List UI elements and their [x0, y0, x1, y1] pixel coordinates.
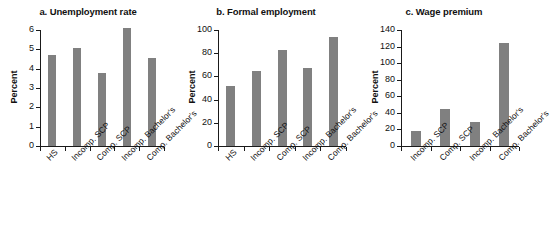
panel-c-y-tick — [397, 30, 401, 31]
panel-a-x-category-label: HS — [45, 148, 59, 162]
bar — [226, 86, 235, 146]
panel-c-y-tick-label: 0 — [363, 141, 395, 150]
panel-b-x-tick — [218, 147, 219, 151]
panel-c-y-axis-line — [401, 30, 402, 146]
panel-a-y-tick-label: 3 — [2, 83, 34, 92]
panel-b: b. Formal employmentPercent020406080100H… — [176, 0, 356, 231]
panel-a-y-tick — [36, 49, 40, 50]
panel-a-y-tick — [36, 107, 40, 108]
panel-c-y-tick-label: 40 — [363, 108, 395, 117]
panel-c: c. Wage premiumPercent020406080100120140… — [356, 0, 532, 231]
panel-b-y-tick — [214, 76, 218, 77]
panel-b-y-tick — [214, 30, 218, 31]
panel-b-y-tick-label: 20 — [180, 118, 212, 127]
panel-c-x-tick — [519, 147, 520, 151]
panel-b-y-tick-label: 60 — [180, 71, 212, 80]
panel-a-y-tick-label: 2 — [2, 102, 34, 111]
panel-a-y-tick-label: 0 — [2, 141, 34, 150]
panel-c-y-tick — [397, 63, 401, 64]
panel-a-y-tick — [36, 127, 40, 128]
bar — [48, 55, 56, 146]
panel-b-x-tick — [244, 147, 245, 151]
panel-a-title: a. Unemployment rate — [0, 6, 176, 17]
panel-c-x-tick — [490, 147, 491, 151]
panel-c-title: c. Wage premium — [356, 6, 532, 17]
panel-c-x-tick — [431, 147, 432, 151]
panel-c-y-tick-label: 60 — [363, 91, 395, 100]
panel-a: a. Unemployment ratePercent0123456HSInco… — [0, 0, 176, 231]
panel-b-y-axis-title: Percent — [187, 57, 197, 117]
panel-a-y-tick — [36, 69, 40, 70]
panel-a-y-tick — [36, 30, 40, 31]
panel-c-y-tick-label: 100 — [363, 58, 395, 67]
panel-b-y-tick-label: 80 — [180, 48, 212, 57]
panel-c-y-tick — [397, 113, 401, 114]
panel-a-y-tick-label: 1 — [2, 122, 34, 131]
panel-c-x-tick — [401, 147, 402, 151]
bar — [73, 48, 81, 146]
panel-c-y-tick-label: 80 — [363, 75, 395, 84]
panel-c-y-tick-label: 120 — [363, 42, 395, 51]
panel-b-y-tick-label: 0 — [180, 141, 212, 150]
bar — [252, 71, 261, 146]
panel-b-y-tick — [214, 100, 218, 101]
panel-b-x-category-label: HS — [224, 148, 238, 162]
panel-a-x-tick — [40, 147, 41, 151]
panel-b-y-tick-label: 100 — [180, 25, 212, 34]
panel-c-y-tick — [397, 129, 401, 130]
panel-a-y-tick-label: 6 — [2, 25, 34, 34]
panel-c-y-tick — [397, 96, 401, 97]
panel-b-y-tick — [214, 53, 218, 54]
panel-a-y-tick-label: 5 — [2, 44, 34, 53]
panel-c-x-tick — [460, 147, 461, 151]
panel-b-y-axis-line — [218, 30, 219, 146]
panel-c-y-tick — [397, 47, 401, 48]
panel-c-y-tick — [397, 80, 401, 81]
panel-b-y-tick — [214, 123, 218, 124]
panel-a-y-tick-label: 4 — [2, 64, 34, 73]
panel-b-y-tick-label: 40 — [180, 95, 212, 104]
panel-a-x-tick — [65, 147, 66, 151]
panel-b-title: b. Formal employment — [176, 6, 356, 17]
panel-c-y-tick-label: 140 — [363, 25, 395, 34]
panel-a-y-tick — [36, 88, 40, 89]
panel-c-y-tick-label: 20 — [363, 124, 395, 133]
panel-a-y-axis-line — [40, 30, 41, 146]
